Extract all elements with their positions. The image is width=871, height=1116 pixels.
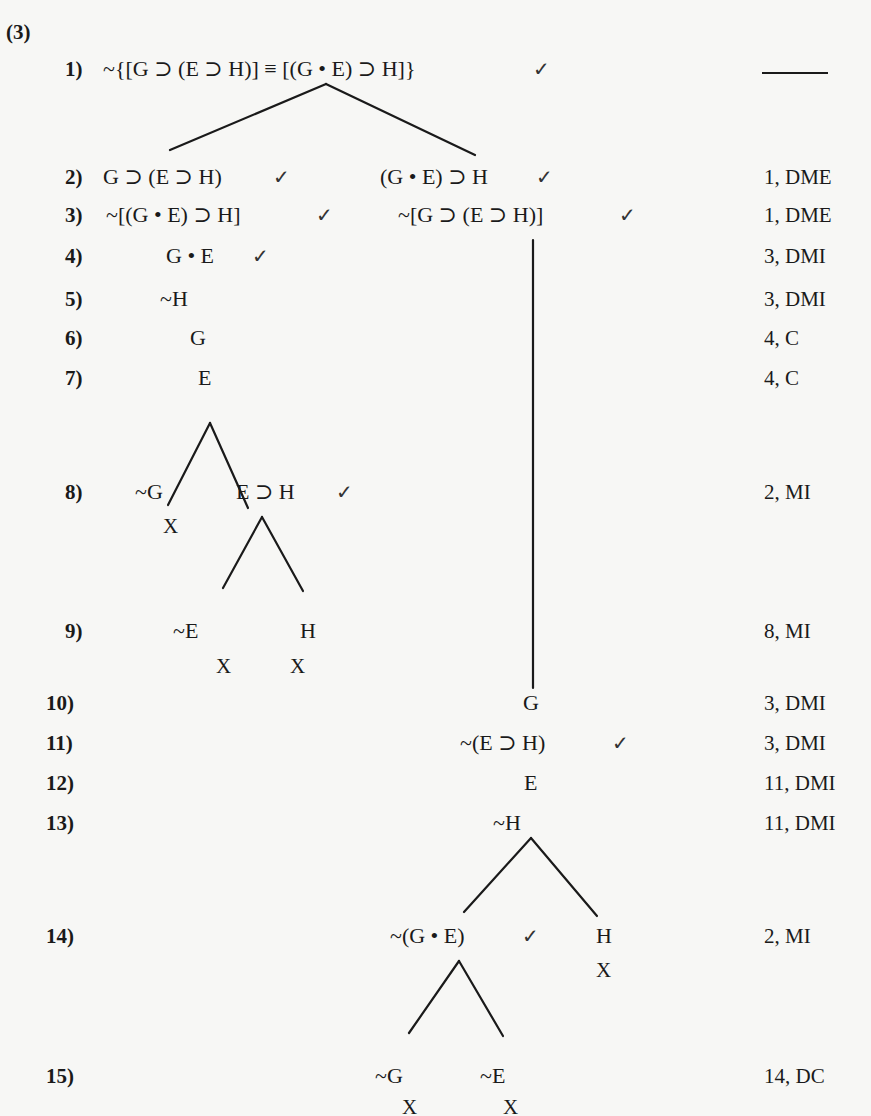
formula: G	[523, 690, 539, 716]
justification: 1, DME	[764, 202, 832, 228]
formula: ~E	[173, 618, 198, 644]
check-mark-icon: ✓	[273, 164, 290, 190]
formula: (G • E) ⊃ H	[380, 164, 488, 190]
formula: H	[596, 923, 612, 949]
line-label: 8)	[65, 479, 83, 505]
root-justification-dash	[762, 72, 828, 74]
justification: 14, DC	[764, 1063, 825, 1089]
closed-branch-x: X	[216, 653, 231, 679]
check-mark-icon: ✓	[336, 479, 353, 505]
formula: ~G	[375, 1063, 403, 1089]
formula: ~(G • E)	[390, 923, 465, 949]
justification: 8, MI	[764, 618, 811, 644]
formula: ~E	[480, 1063, 505, 1089]
check-mark-icon: ✓	[316, 202, 333, 228]
line-label: 14)	[46, 923, 74, 949]
check-mark-icon: ✓	[522, 923, 539, 949]
line-label: 7)	[65, 365, 83, 391]
formula: G ⊃ (E ⊃ H)	[103, 164, 222, 190]
closed-branch-x: X	[290, 653, 305, 679]
check-mark-icon: ✓	[252, 243, 269, 269]
line-label: 12)	[46, 770, 74, 796]
line-label: 11)	[46, 730, 73, 756]
closed-branch-x: X	[163, 513, 178, 539]
formula: ~H	[160, 286, 188, 312]
justification: 11, DMI	[764, 770, 836, 796]
justification: 3, DMI	[764, 730, 826, 756]
line-label: 13)	[46, 810, 74, 836]
formula: G	[190, 325, 206, 351]
formula: H	[300, 618, 316, 644]
line-label: 6)	[65, 325, 83, 351]
check-mark-icon: ✓	[536, 164, 553, 190]
justification: 3, DMI	[764, 286, 826, 312]
justification: 11, DMI	[764, 810, 836, 836]
truth-tree-page: (3) 1) ~{[G ⊃ (E ⊃ H)] ≡ [(G • E) ⊃ H]} …	[0, 0, 871, 1116]
justification: 2, MI	[764, 923, 811, 949]
formula: ~(E ⊃ H)	[460, 730, 545, 756]
line-label: 9)	[65, 618, 83, 644]
closed-branch-x: X	[402, 1094, 417, 1116]
check-mark-icon: ✓	[612, 730, 629, 756]
line-label: 15)	[46, 1063, 74, 1089]
formula: ~[G ⊃ (E ⊃ H)]	[398, 202, 543, 228]
formula: ~{[G ⊃ (E ⊃ H)] ≡ [(G • E) ⊃ H]}	[103, 56, 415, 82]
formula: G • E	[166, 243, 214, 269]
check-mark-icon: ✓	[533, 56, 550, 82]
check-mark-icon: ✓	[619, 202, 636, 228]
problem-number: (3)	[6, 19, 31, 45]
line-label: 4)	[65, 243, 83, 269]
line-label: 1)	[65, 56, 83, 82]
line-label: 3)	[65, 202, 83, 228]
justification: 3, DMI	[764, 690, 826, 716]
line-label: 5)	[65, 286, 83, 312]
justification: 2, MI	[764, 479, 811, 505]
formula: E	[524, 770, 537, 796]
justification: 4, C	[764, 325, 799, 351]
formula: E	[198, 365, 211, 391]
line-label: 2)	[65, 164, 83, 190]
formula: E ⊃ H	[236, 479, 295, 505]
justification: 4, C	[764, 365, 799, 391]
formula: ~G	[135, 479, 163, 505]
formula: ~H	[493, 810, 521, 836]
line-label: 10)	[46, 690, 74, 716]
formula: ~[(G • E) ⊃ H]	[106, 202, 241, 228]
justification: 1, DME	[764, 164, 832, 190]
justification: 3, DMI	[764, 243, 826, 269]
closed-branch-x: X	[503, 1094, 518, 1116]
closed-branch-x: X	[596, 957, 611, 983]
